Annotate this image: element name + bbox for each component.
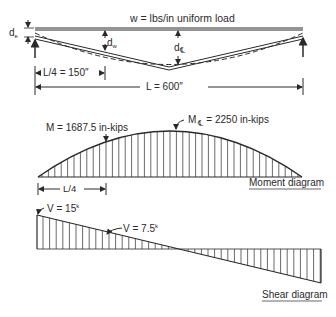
moment-quarter-label: M = 1687.5 in-kips	[46, 122, 128, 133]
shear-diagram-title: Shear diagram	[262, 289, 328, 300]
beam-analysis-diagram: w = lbs/in uniform load de dw d℄ L/4 = 1…	[0, 0, 336, 317]
load-label: w = lbs/in uniform load	[129, 12, 235, 24]
span-label: L = 600″	[146, 81, 183, 92]
shear-end-label: V = 15k	[47, 203, 80, 214]
moment-center-label: M℄= 2250 in-kips	[188, 114, 269, 128]
shear-quarter-label: V = 7.5k	[123, 223, 159, 234]
moment-quarter-dim-label: L/4	[63, 183, 76, 194]
elastic-curve-dashed	[35, 33, 303, 65]
moment-diagram-title: Moment diagram	[249, 177, 324, 188]
end-deflection-label: de	[9, 27, 19, 39]
quarter-deflection-label: dw	[107, 37, 118, 49]
quarter-span-label: L/4 = 150″	[43, 67, 89, 78]
deflected-beam-line	[35, 36, 303, 67]
center-deflection-label: d℄	[174, 42, 186, 55]
shear-diagram	[37, 208, 321, 283]
